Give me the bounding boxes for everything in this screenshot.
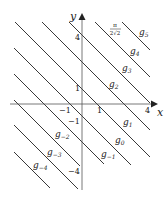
line-g1 xyxy=(15,22,150,157)
label-g-2: g−2 xyxy=(55,129,70,140)
y-tick-1: 1 xyxy=(75,84,80,93)
label-g4: g4 xyxy=(130,46,140,57)
label-g3: g3 xyxy=(122,63,132,74)
y-tick-minus4: −4 xyxy=(68,167,80,176)
label-g5: g5 xyxy=(139,27,149,38)
diagram-canvas: x y −1 1 4 4 1 −1 −4 π 2√2 g5 g4 g3 g2 g… xyxy=(0,0,168,204)
x-tick-4: 4 xyxy=(145,106,150,115)
label-g0: g0 xyxy=(115,135,125,146)
y-axis-label: y xyxy=(69,10,77,23)
label-g-3: g−3 xyxy=(47,147,62,158)
line-g0 xyxy=(14,48,131,165)
annotation-denominator: 2√2 xyxy=(110,30,121,36)
annotation-numerator: π xyxy=(113,21,117,28)
label-g2: g2 xyxy=(109,79,119,90)
spacing-annotation: π 2√2 xyxy=(110,21,121,36)
y-tick-minus1: −1 xyxy=(68,117,80,126)
x-axis-label: x xyxy=(157,106,164,119)
x-tick-minus1: −1 xyxy=(59,106,71,115)
label-g-4: g−4 xyxy=(33,160,48,171)
x-tick-1: 1 xyxy=(97,106,102,115)
label-g-1: g−1 xyxy=(101,149,116,160)
y-tick-4: 4 xyxy=(75,33,80,42)
label-g1: g1 xyxy=(123,117,133,128)
y-axis-arrow-icon xyxy=(79,13,86,20)
